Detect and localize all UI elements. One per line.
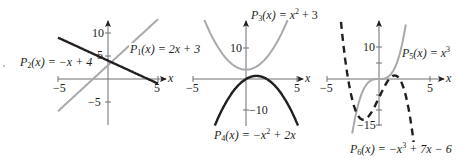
- tick-label-neg5: −5: [320, 81, 333, 95]
- curve-p6: [340, 10, 419, 162]
- x-axis-label: x: [304, 71, 311, 85]
- label-p4: P4(x) = −x2 + 2x: [214, 128, 296, 143]
- tick-label-neg15: −15: [357, 118, 376, 132]
- label-p2: P2(x) = −x + 4: [20, 56, 92, 70]
- label-p3: P3(x) = x2 + 3: [251, 8, 318, 23]
- tick-label-neg10: −10: [249, 103, 268, 117]
- tick-label-10: 10: [363, 40, 375, 54]
- stray-dot: [3, 65, 5, 67]
- tick-label-neg5: −5: [53, 81, 66, 95]
- tick-label-neg5: −5: [186, 81, 199, 95]
- label-p5: P5(x) = x3: [402, 46, 450, 61]
- label-p1-rest: (x) = 2x + 3: [141, 42, 200, 56]
- x-axis-label: x: [445, 71, 452, 85]
- panel-3-cubic: −5 5 10 −15 x: [320, 10, 452, 162]
- x-axis-label: x: [167, 71, 174, 85]
- panel-1-linear: −5 5 10 5 −5 x: [53, 19, 174, 125]
- label-p1: P1(x) = 2x + 3: [129, 43, 201, 57]
- panel-3-axes: −5 5 10 −15 x: [320, 21, 452, 132]
- label-p6: P6(x) = −x3 + 7x − 6: [350, 142, 452, 157]
- panel-1-axes: −5 5 10 5 −5 x: [53, 21, 174, 125]
- polynomial-graphs-figure: −5 5 10 5 −5 x −5: [0, 0, 467, 162]
- curve-p4: [215, 76, 298, 126]
- tick-label-yneg5: −5: [88, 95, 101, 109]
- tick-label-5: 5: [294, 81, 300, 95]
- label-p2-rest: (x) = −x + 4: [31, 55, 92, 69]
- tick-label-5: 5: [427, 81, 433, 95]
- tick-label-10: 10: [92, 26, 104, 40]
- panel-2-quadratic: −5 5 10 −10 x: [186, 20, 311, 126]
- tick-label-10: 10: [230, 41, 242, 55]
